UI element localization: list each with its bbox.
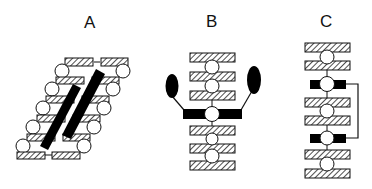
panel-a: A [16,13,130,159]
panel-b-right-lobe [247,66,261,94]
panel-b-left-lobe [166,74,179,98]
diagram-canvas: A [0,0,372,189]
panel-b: B [166,12,262,170]
panel-c: C [305,12,358,178]
panel-a-stack [16,58,130,159]
panel-b-label: B [206,12,217,31]
panel-c-label: C [320,12,332,31]
panel-c-connector [346,84,358,138]
panel-a-label: A [84,13,96,32]
panel-c-stack [305,43,350,178]
